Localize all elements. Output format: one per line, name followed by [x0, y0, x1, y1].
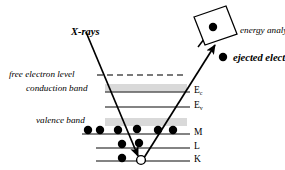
level-label-ev-sub: v: [200, 105, 203, 111]
ejected-electron-dot: [219, 53, 227, 61]
conduction-band-shading: [105, 84, 187, 92]
level-label-ec-sub: c: [200, 90, 203, 96]
electron-in-analyzer: [209, 23, 217, 31]
electron-m-5: [154, 126, 162, 134]
level-label-m: M: [194, 128, 202, 138]
level-label-ev: Ev: [194, 101, 203, 111]
xray-arrow: [86, 32, 138, 156]
electron-m-4: [133, 125, 141, 133]
valence-band-shading: [105, 118, 187, 126]
photoelectron-arrow: [142, 45, 215, 161]
electron-m-3: [114, 126, 122, 134]
electron-k-1: [118, 154, 126, 162]
level-label-k: K: [194, 155, 201, 165]
electron-m-1: [84, 126, 92, 134]
xrays-label: X-rays: [71, 27, 100, 38]
level-label-ev-text: E: [194, 100, 200, 110]
level-label-ec: Ec: [194, 86, 202, 96]
ejected-electron-label: ejected electron: [233, 53, 285, 64]
electron-l-2: [135, 139, 143, 147]
energy-analyzer-label: energy analyzer: [240, 26, 285, 35]
free-electron-level-label: free electron level: [9, 70, 75, 79]
xps-energy-level-diagram: X-rays energy analyzer ejected electron …: [0, 0, 285, 170]
electron-l-1: [118, 140, 126, 148]
valence-band-label: valence band: [36, 116, 85, 125]
electron-m-2: [96, 126, 104, 134]
conduction-band-label: conduction band: [26, 84, 88, 93]
electron-m-6: [169, 126, 177, 134]
level-label-l: L: [194, 142, 200, 152]
core-hole: [137, 156, 146, 165]
level-label-ec-text: E: [194, 85, 200, 95]
